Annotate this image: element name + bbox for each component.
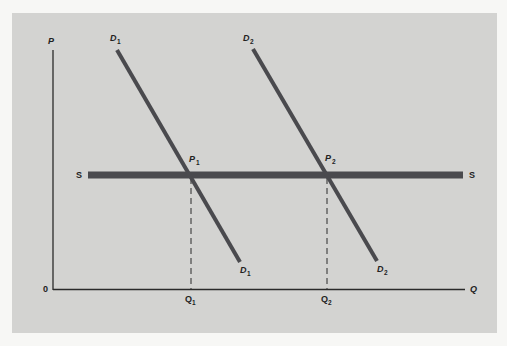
svg-text:1: 1 [192, 299, 196, 306]
svg-text:2: 2 [250, 38, 254, 45]
svg-text:P: P [325, 153, 332, 163]
svg-text:D: D [110, 33, 117, 43]
d2-top-label: D 2 [243, 33, 254, 45]
svg-text:1: 1 [196, 159, 200, 166]
svg-text:Q: Q [185, 294, 192, 304]
svg-text:2: 2 [328, 299, 332, 306]
demand-curve-d1 [117, 50, 240, 262]
demand-curve-d2 [253, 49, 377, 261]
supply-label-right: S [469, 170, 475, 180]
svg-text:2: 2 [332, 158, 336, 165]
q1-label: Q 1 [185, 294, 196, 306]
d1-top-label: D 1 [110, 33, 121, 45]
svg-text:Q: Q [321, 294, 328, 304]
svg-text:1: 1 [117, 38, 121, 45]
svg-text:D: D [377, 264, 384, 274]
x-axis-label: Q [470, 284, 477, 294]
p1-label: P 1 [189, 154, 200, 166]
svg-text:D: D [243, 33, 250, 43]
d2-bottom-label: D 2 [377, 264, 388, 276]
d1-bottom-label: D 1 [240, 265, 251, 277]
supply-label-left: S [76, 170, 82, 180]
svg-text:D: D [240, 265, 247, 275]
q2-label: Q 2 [321, 294, 332, 306]
svg-text:2: 2 [384, 269, 388, 276]
p2-label: P 2 [325, 153, 336, 165]
supply-demand-diagram: P Q 0 S S D 1 D 1 D 2 D 2 P 1 P 2 Q 1 Q … [0, 0, 507, 346]
origin-label: 0 [43, 284, 48, 294]
y-axis-label: P [48, 36, 55, 46]
svg-text:P: P [189, 154, 196, 164]
svg-text:1: 1 [247, 270, 251, 277]
